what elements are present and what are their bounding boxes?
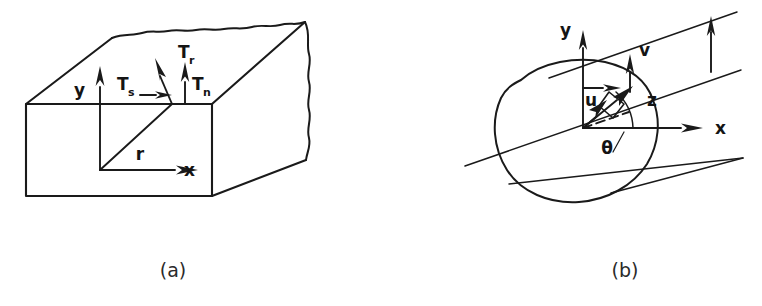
theta-label: θ: [601, 138, 613, 158]
block-right-torn-edge: [305, 22, 310, 160]
traction-normal-arrowhead: [181, 62, 189, 82]
block-top-back-torn-edge: [112, 22, 305, 38]
velocity-u-arrowhead: [603, 84, 621, 92]
inclined-line-lower-left: [509, 158, 743, 184]
figure-container: y x r T s T r T n (a): [0, 0, 762, 306]
traction-resultant-stem: [160, 76, 172, 104]
panel-b-x-label: x: [715, 118, 726, 138]
panel-a-r-label: r: [136, 144, 145, 164]
panel-b-y-axis-arrowhead: [579, 30, 587, 50]
traction-shear-subscript: s: [128, 86, 135, 99]
panel-a-y-label: y: [74, 80, 85, 100]
panel-a-drawing: y x r T s T r T n (a): [0, 0, 381, 306]
panel-b-x-axis-arrowhead: [681, 123, 703, 132]
panel-b: y x u v z θ (b): [381, 0, 762, 306]
traction-resultant-subscript: r: [189, 54, 195, 67]
inclined-line-lower: [611, 158, 743, 193]
velocity-u-label: u: [585, 90, 597, 110]
panel-b-y-label: y: [560, 20, 571, 40]
z-axis-label: z: [647, 90, 657, 110]
cross-section-outline: [495, 60, 658, 202]
panel-a-y-axis-arrowhead: [96, 66, 105, 86]
z-axis-dashed-line: [583, 112, 629, 128]
panel-b-caption: (b): [612, 259, 639, 281]
block-front-face: [26, 104, 212, 196]
velocity-v-label: v: [639, 40, 650, 60]
panel-a-x-label: x: [184, 160, 195, 180]
block-top-right-edge: [212, 22, 305, 104]
traction-normal-subscript: n: [203, 86, 211, 99]
block-bottom-right-edge: [212, 160, 306, 196]
panel-a: y x r T s T r T n (a): [0, 0, 381, 306]
theta-leader-line: [613, 132, 624, 152]
panel-b-drawing: y x u v z θ (b): [381, 0, 762, 306]
panel-a-caption: (a): [160, 259, 186, 281]
